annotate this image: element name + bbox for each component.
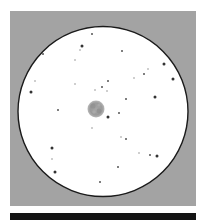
nebula-disc <box>88 101 105 118</box>
star <box>91 127 93 129</box>
star <box>42 53 44 55</box>
star <box>101 86 103 88</box>
nebula-mottle <box>97 103 100 106</box>
star <box>118 112 120 114</box>
star <box>57 109 59 111</box>
nebula-mottle <box>92 110 96 114</box>
star <box>163 63 166 66</box>
star <box>125 138 127 140</box>
star <box>107 80 109 82</box>
star <box>149 154 151 156</box>
star <box>172 78 175 81</box>
star <box>156 155 159 158</box>
star <box>74 59 76 61</box>
star <box>74 83 76 85</box>
star <box>54 171 57 174</box>
nebula-mottle <box>97 109 102 114</box>
star <box>79 49 81 51</box>
star <box>94 89 96 91</box>
star <box>30 91 33 94</box>
star <box>154 96 157 99</box>
eyepiece-sketch <box>0 0 207 220</box>
scale-bar <box>10 213 196 220</box>
star <box>106 90 108 92</box>
star <box>120 136 122 138</box>
star <box>107 116 110 119</box>
star <box>51 158 53 160</box>
nebula <box>88 101 105 118</box>
star <box>117 166 119 168</box>
star <box>147 68 149 70</box>
star <box>91 33 93 35</box>
star <box>143 73 145 75</box>
star <box>125 98 127 100</box>
star <box>51 147 54 150</box>
star <box>34 80 36 82</box>
star <box>81 45 84 48</box>
nebula-mottle <box>90 103 95 108</box>
star <box>99 181 101 183</box>
star <box>138 152 140 154</box>
star <box>133 77 135 79</box>
star <box>121 50 123 52</box>
